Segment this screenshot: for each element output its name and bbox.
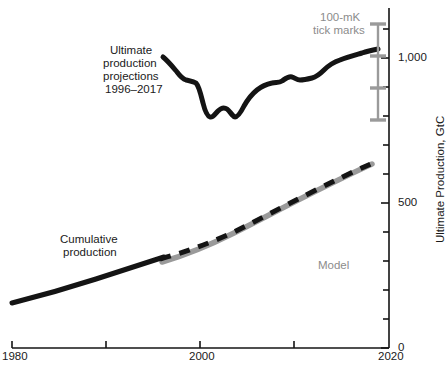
y-tick-label-0: 0	[398, 341, 404, 353]
cumulative-label-line2: production	[63, 246, 117, 259]
cumulative-production-line	[12, 257, 164, 303]
axes-group	[12, 8, 389, 348]
x-tick-label-1980: 1980	[2, 350, 28, 362]
projection-label-line1: Ultimate	[110, 44, 152, 57]
cumulative-label-line1: Cumulative	[60, 233, 118, 246]
tick-marks-label-line2: tick marks	[313, 24, 365, 37]
model-line-gray	[162, 164, 372, 262]
model-label: Model	[318, 259, 349, 272]
y-axis-title: Ultimate Production, GtC	[434, 116, 446, 243]
x-tick-label-2000: 2000	[189, 350, 215, 362]
scale-bar-100mK	[370, 24, 386, 120]
ultimate-projections-line	[163, 49, 378, 117]
projection-label-line4: 1996–2017	[105, 83, 163, 96]
y-tick-label-500: 500	[398, 196, 417, 208]
projection-label-line2: production	[103, 57, 157, 70]
tick-marks-label-line1: 100-mK	[320, 11, 360, 24]
y-tick-label-1000: 1,000	[398, 51, 427, 63]
projection-label-line3: projections	[103, 70, 159, 83]
